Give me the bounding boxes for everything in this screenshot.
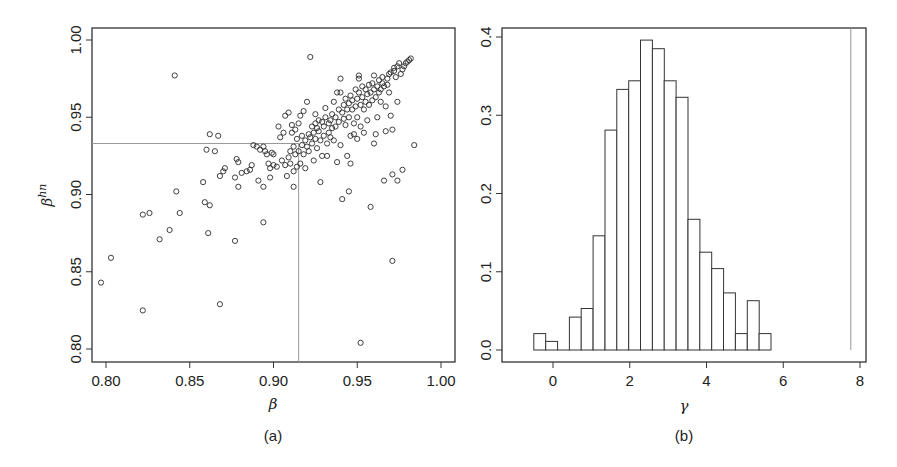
- data-point: [380, 75, 385, 80]
- data-point: [207, 132, 212, 137]
- data-point: [355, 136, 360, 141]
- data-point: [140, 308, 145, 313]
- data-point: [358, 340, 363, 345]
- data-point: [308, 135, 313, 140]
- data-point: [375, 115, 380, 120]
- data-point: [388, 113, 393, 118]
- data-point: [309, 141, 314, 146]
- data-point: [289, 130, 294, 135]
- data-point: [239, 170, 244, 175]
- data-point: [346, 115, 351, 120]
- data-point: [325, 141, 330, 146]
- data-point: [298, 113, 303, 118]
- y-tick-label: 0.80: [67, 334, 84, 363]
- data-point: [361, 107, 366, 112]
- data-point: [353, 87, 358, 92]
- data-point: [212, 149, 217, 154]
- data-point: [346, 101, 351, 106]
- data-point: [355, 96, 360, 101]
- data-point: [340, 197, 345, 202]
- data-point: [351, 121, 356, 126]
- data-point: [393, 75, 398, 80]
- x-axis-ticks-a: 0.800.850.900.951.00: [91, 362, 455, 389]
- x-tick-label: 1.00: [426, 372, 455, 389]
- data-point: [345, 107, 350, 112]
- data-point: [234, 156, 239, 161]
- data-point: [350, 107, 355, 112]
- data-point: [395, 178, 400, 183]
- data-point: [204, 147, 209, 152]
- histogram-bar: [593, 236, 605, 350]
- data-point: [264, 152, 269, 157]
- panel-label-b: (b): [675, 427, 693, 444]
- data-point: [412, 143, 417, 148]
- histogram-bar: [676, 97, 688, 350]
- data-point: [333, 115, 338, 120]
- data-point: [294, 136, 299, 141]
- y-axis-label-base: β: [38, 197, 56, 207]
- data-point: [311, 158, 316, 163]
- histogram-bar: [652, 49, 664, 350]
- data-point: [321, 133, 326, 138]
- data-point: [320, 153, 325, 158]
- data-point: [256, 178, 261, 183]
- data-point: [279, 158, 284, 163]
- data-point: [313, 136, 318, 141]
- data-point: [301, 109, 306, 114]
- histogram-bar: [688, 219, 700, 350]
- data-point: [281, 130, 286, 135]
- data-point: [284, 173, 289, 178]
- data-point: [366, 102, 371, 107]
- histogram-bar: [617, 89, 629, 350]
- data-point: [371, 73, 376, 78]
- data-point: [301, 152, 306, 157]
- data-point: [177, 210, 182, 215]
- data-point: [288, 161, 293, 166]
- data-point: [216, 133, 221, 138]
- data-point: [206, 231, 211, 236]
- data-point: [276, 124, 281, 129]
- y-tick-label: 0.90: [67, 180, 84, 209]
- y-axis-ticks-b: 0.00.10.20.30.4: [477, 27, 502, 361]
- data-point: [318, 138, 323, 143]
- data-point: [335, 160, 340, 165]
- data-point: [375, 84, 380, 89]
- data-point: [316, 129, 321, 134]
- x-axis-ticks-b: 02468: [549, 362, 864, 389]
- y-tick-label: 0.95: [67, 103, 84, 132]
- y-axis-label-a: βhn: [36, 184, 56, 208]
- y-axis-ticks-a: 0.800.850.900.951.00: [67, 25, 92, 363]
- data-point: [328, 135, 333, 140]
- data-point: [174, 189, 179, 194]
- data-point: [341, 116, 346, 121]
- histogram-bar: [747, 301, 759, 350]
- data-point: [366, 82, 371, 87]
- data-point: [383, 129, 388, 134]
- data-point: [340, 110, 345, 115]
- y-axis-label-sup: hn: [36, 184, 49, 198]
- histogram-bar: [700, 252, 712, 350]
- data-point: [268, 166, 273, 171]
- histogram-bar: [605, 130, 617, 350]
- data-point: [387, 90, 392, 95]
- data-point: [304, 99, 309, 104]
- scatter-points: [98, 54, 416, 345]
- data-point: [390, 127, 395, 132]
- data-point: [283, 113, 288, 118]
- data-point: [321, 124, 326, 129]
- data-point: [201, 180, 206, 185]
- data-point: [286, 155, 291, 160]
- data-point: [217, 173, 222, 178]
- data-point: [376, 90, 381, 95]
- x-axis-label-a: β: [268, 395, 278, 413]
- data-point: [350, 98, 355, 103]
- data-point: [402, 64, 407, 69]
- data-point: [326, 121, 331, 126]
- data-point: [338, 143, 343, 148]
- data-point: [368, 204, 373, 209]
- data-point: [261, 184, 266, 189]
- scatter-panel-a: 0.800.850.900.951.00 0.800.850.900.951.0…: [36, 25, 456, 444]
- data-point: [236, 160, 241, 165]
- data-point: [157, 237, 162, 242]
- x-tick-label: 6: [779, 372, 787, 389]
